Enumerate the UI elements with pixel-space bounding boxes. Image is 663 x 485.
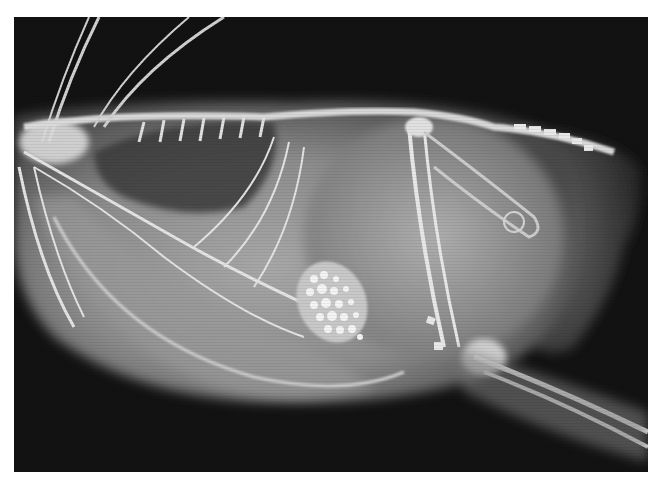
xray-image [14, 17, 648, 472]
shoulder-joint [19, 120, 89, 164]
leg-soft-tissue [454, 347, 648, 462]
radiograph-drawing [14, 17, 648, 472]
